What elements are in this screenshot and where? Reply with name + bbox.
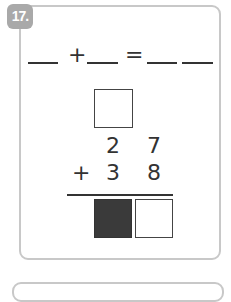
ones-digit-row2: 8: [147, 162, 161, 184]
plus-sign: +: [68, 44, 86, 66]
answer-box-ones[interactable]: [135, 199, 173, 238]
next-problem-card: [12, 282, 224, 302]
equals-sign: =: [125, 44, 143, 66]
equation-blank-3[interactable]: [147, 62, 177, 64]
tens-digit-row1: 2: [106, 135, 120, 157]
problem-number-badge: 17.: [7, 4, 33, 29]
equation-blank-4[interactable]: [182, 62, 213, 64]
tens-digit-row2: 3: [106, 162, 120, 184]
answer-box-tens[interactable]: [94, 199, 132, 238]
equation-blank-1[interactable]: [28, 62, 58, 64]
carry-box[interactable]: [94, 89, 133, 128]
sum-line: [67, 194, 173, 196]
ones-digit-row1: 7: [147, 135, 161, 157]
equation-blank-2[interactable]: [87, 62, 118, 64]
plus-operator: +: [72, 162, 90, 184]
